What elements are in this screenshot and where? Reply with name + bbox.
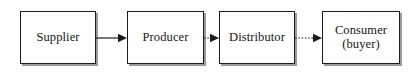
supply-chain-diagram: Supplier Producer Distributor Consumer (… (0, 0, 409, 77)
connector-producer-to-distributor (204, 32, 219, 44)
node-distributor-label: Distributor (227, 31, 287, 45)
node-distributor: Distributor (219, 11, 295, 64)
node-consumer: Consumer (buyer) (322, 11, 400, 64)
node-producer-label: Producer (141, 31, 191, 45)
node-consumer-label: Consumer (buyer) (333, 24, 389, 51)
connector-supplier-to-producer (96, 32, 127, 44)
node-supplier: Supplier (20, 11, 96, 64)
node-producer: Producer (127, 11, 204, 64)
node-supplier-label: Supplier (34, 31, 81, 45)
connector-distributor-to-consumer (295, 32, 322, 44)
